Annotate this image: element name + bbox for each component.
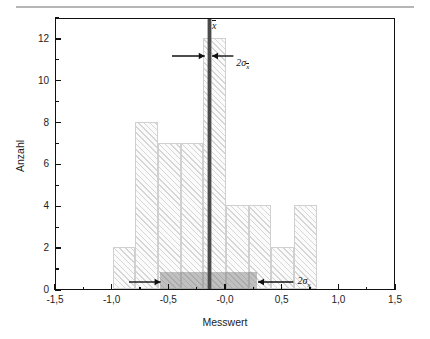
y-minor-tick (55, 17, 59, 18)
x-major-tick (224, 284, 225, 290)
x-tick-label: -1,5 (35, 294, 75, 305)
y-major-tick (55, 122, 61, 123)
x-minor-tick (196, 287, 197, 291)
y-minor-tick (55, 59, 59, 60)
y-major-tick (55, 38, 61, 39)
mean-label: x (212, 20, 216, 31)
x-tick-label: -0,0 (205, 294, 245, 305)
y-major-tick (55, 289, 61, 290)
x-tick-label: 0,5 (262, 294, 302, 305)
x-major-tick (394, 284, 395, 290)
y-tick-label: 0 (25, 284, 49, 295)
sigma-mean-label: 2σx (236, 58, 249, 71)
sigma-x-label: 2σx (298, 276, 311, 289)
top-divider-rule (16, 6, 414, 8)
y-major-tick (55, 164, 61, 165)
histogram-bar (135, 122, 158, 289)
x-tick-label: -0,5 (148, 294, 188, 305)
y-minor-tick (55, 227, 59, 228)
y-tick-label: 2 (25, 242, 49, 253)
sigma-x-arrow-left (123, 276, 167, 288)
histogram-bar (158, 143, 181, 289)
histogram-bar (181, 143, 204, 289)
y-tick-label: 6 (25, 158, 49, 169)
y-minor-tick (55, 185, 59, 186)
x-minor-tick (366, 287, 367, 291)
y-tick-label: 10 (25, 75, 49, 86)
y-minor-tick (55, 101, 59, 102)
sigma-x-arrow-right (252, 276, 299, 288)
y-major-tick (55, 80, 61, 81)
x-major-tick (168, 284, 169, 290)
x-tick-label: -1,0 (92, 294, 132, 305)
y-axis-title: Anzahl (14, 140, 26, 172)
x-axis-title: Messwert (55, 316, 395, 328)
y-tick-label: 12 (25, 33, 49, 44)
y-major-tick (55, 206, 61, 207)
x-tick-label: 1,0 (318, 294, 358, 305)
y-minor-tick (55, 143, 59, 144)
x-major-tick (338, 284, 339, 290)
sigma-mean-arrow-right (206, 50, 239, 62)
x-major-tick (111, 284, 112, 290)
y-tick-label: 8 (25, 117, 49, 128)
figure-root: -1,5-1,0-0,5-0,00,51,01,5024681012 Messw… (0, 0, 430, 339)
y-major-tick (55, 247, 61, 248)
y-minor-tick (55, 268, 59, 269)
sigma-mean-arrow-left (166, 50, 211, 62)
y-tick-label: 4 (25, 200, 49, 211)
x-tick-label: 1,5 (375, 294, 415, 305)
x-minor-tick (83, 287, 84, 291)
